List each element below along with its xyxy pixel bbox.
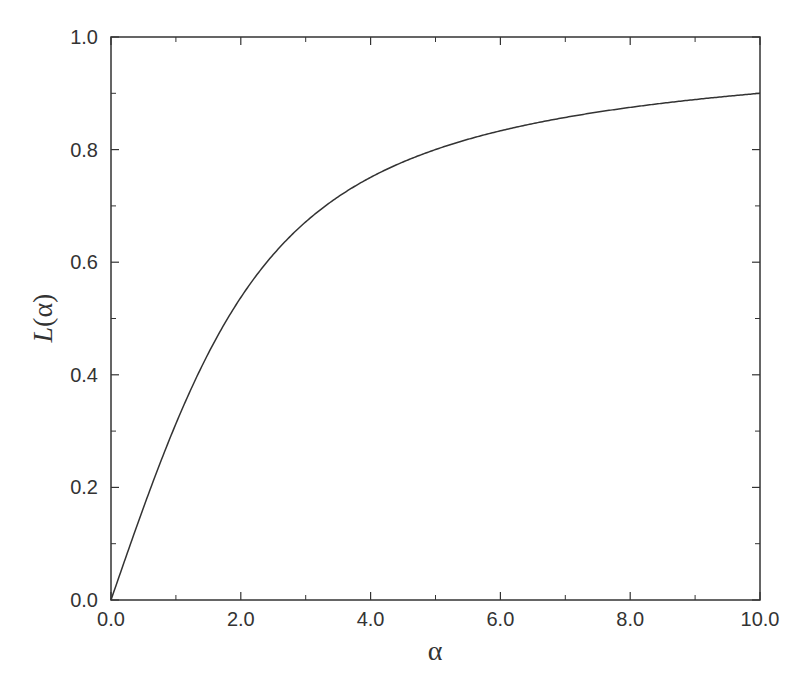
x-tick-label: 6.0 <box>486 608 514 630</box>
plot-frame <box>111 37 760 600</box>
y-axis-title-italic: L <box>27 327 58 344</box>
x-tick-label: 4.0 <box>357 608 385 630</box>
axis-ticks <box>111 37 760 600</box>
y-axis-tick-labels: 0.00.20.40.60.81.0 <box>70 26 98 611</box>
x-axis-tick-labels: 0.02.04.06.08.010.0 <box>97 608 779 630</box>
y-tick-label: 0.4 <box>70 364 98 386</box>
y-tick-label: 0.0 <box>70 589 98 611</box>
x-axis-title: α <box>428 635 443 666</box>
x-tick-label: 0.0 <box>97 608 125 630</box>
x-tick-label: 10.0 <box>741 608 780 630</box>
x-tick-label: 2.0 <box>227 608 255 630</box>
y-axis-title-rest: (α) <box>27 294 58 327</box>
y-tick-label: 0.6 <box>70 251 98 273</box>
y-tick-label: 0.8 <box>70 139 98 161</box>
y-tick-label: 1.0 <box>70 26 98 48</box>
line-chart: 0.02.04.06.08.010.0 0.00.20.40.60.81.0 α… <box>0 0 809 683</box>
plot-border <box>111 37 760 600</box>
langevin-curve <box>111 93 760 600</box>
y-axis-title: L(α) <box>27 294 58 344</box>
x-tick-label: 8.0 <box>616 608 644 630</box>
y-tick-label: 0.2 <box>70 476 98 498</box>
